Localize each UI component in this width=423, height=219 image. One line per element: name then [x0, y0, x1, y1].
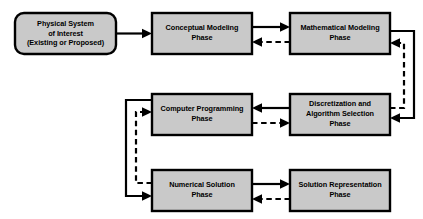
node-numerical-solution-line2: Phase [191, 190, 212, 199]
flowchart-diagram: Physical System of Interest (Existing or… [0, 0, 423, 219]
node-discretization-algorithm[interactable]: Discretization and Algorithm Selection P… [290, 94, 390, 135]
node-computer-programming-line1: Computer Programming [161, 104, 244, 113]
node-physical-system-line3: (Existing or Proposed) [27, 38, 105, 47]
node-solution-representation-line1: Solution Representation [298, 180, 381, 189]
connector-solution-representation-to-numerical [252, 194, 290, 203]
node-physical-system[interactable]: Physical System of Interest (Existing or… [15, 13, 116, 54]
connector-discretization-to-mathematical [390, 38, 404, 108]
node-solution-representation[interactable]: Solution Representation Phase [290, 170, 390, 211]
node-discretization-algorithm-line1: Discretization and [309, 99, 371, 108]
connector-mathematical-to-conceptual [252, 37, 290, 46]
node-physical-system-line2: of Interest [48, 29, 83, 38]
node-discretization-algorithm-line3: Phase [329, 119, 350, 128]
connector-numerical-to-solution-representation [252, 179, 290, 188]
connector-conceptual-to-mathematical [252, 22, 290, 31]
node-mathematical-modeling-line1: Mathematical Modeling [300, 23, 379, 32]
node-solution-representation-line2: Phase [329, 190, 350, 199]
node-conceptual-modeling[interactable]: Conceptual Modeling Phase [152, 13, 252, 54]
connector-physical-to-conceptual [116, 29, 152, 38]
connector-computer-to-numerical [126, 100, 152, 201]
node-conceptual-modeling-line1: Conceptual Modeling [166, 23, 239, 32]
node-mathematical-modeling[interactable]: Mathematical Modeling Phase [290, 13, 390, 54]
node-computer-programming[interactable]: Computer Programming Phase [152, 94, 252, 135]
flowchart-canvas: Physical System of Interest (Existing or… [0, 0, 423, 219]
connector-numerical-to-computer [136, 107, 152, 183]
node-conceptual-modeling-line2: Phase [191, 33, 212, 42]
node-computer-programming-line2: Phase [191, 114, 212, 123]
connector-discretization-to-computer [252, 103, 290, 112]
node-physical-system-line1: Physical System [37, 19, 94, 28]
connector-computer-to-discretization [252, 118, 290, 127]
node-numerical-solution[interactable]: Numerical Solution Phase [152, 170, 252, 211]
node-discretization-algorithm-line2: Algorithm Selection [306, 109, 374, 118]
node-mathematical-modeling-line2: Phase [329, 33, 350, 42]
node-numerical-solution-line1: Numerical Solution [169, 180, 235, 189]
